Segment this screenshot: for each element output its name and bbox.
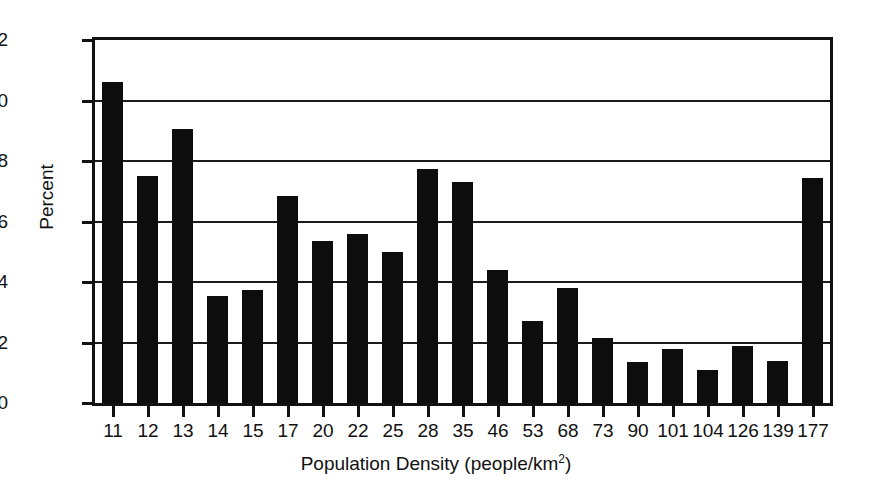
x-tick-mark	[812, 406, 815, 417]
bar	[277, 196, 298, 403]
bar	[732, 346, 753, 403]
bar	[417, 169, 438, 403]
chart-page: 024681012 Percent 1112131415172022252835…	[0, 0, 872, 497]
x-tick-mark	[112, 406, 115, 417]
x-tick-mark	[427, 406, 430, 417]
bar	[242, 290, 263, 403]
bar	[487, 270, 508, 403]
gridline-10	[95, 100, 830, 102]
x-axis-title-tail: )	[565, 453, 571, 474]
bar	[102, 82, 123, 403]
bar	[137, 176, 158, 403]
bar	[662, 349, 683, 403]
x-tick-mark	[182, 406, 185, 417]
plot-area	[92, 37, 833, 406]
bar	[172, 129, 193, 403]
bar	[347, 234, 368, 403]
x-tick-mark	[602, 406, 605, 417]
bar	[522, 321, 543, 403]
x-tick-mark	[357, 406, 360, 417]
y-tick-mark-2	[82, 342, 92, 345]
y-tick-mark-6	[82, 221, 92, 224]
y-tick-label: 0	[0, 393, 8, 412]
x-tick-label: 177	[788, 421, 838, 440]
y-tick-label: 8	[0, 151, 8, 170]
bar	[382, 252, 403, 403]
y-tick-label: 12	[0, 30, 8, 49]
bar	[802, 178, 823, 403]
gridline-8	[95, 160, 830, 162]
x-tick-mark	[567, 406, 570, 417]
y-tick-mark-10	[82, 100, 92, 103]
x-tick-mark	[392, 406, 395, 417]
bar	[627, 362, 648, 403]
x-tick-mark	[322, 406, 325, 417]
x-axis-title: Population Density (people/km2)	[0, 452, 872, 475]
bar	[767, 361, 788, 403]
bar	[697, 370, 718, 403]
y-tick-mark-12	[82, 39, 92, 42]
x-tick-mark	[217, 406, 220, 417]
x-tick-mark	[252, 406, 255, 417]
x-tick-mark	[287, 406, 290, 417]
y-tick-mark-8	[82, 160, 92, 163]
x-tick-mark	[637, 406, 640, 417]
x-tick-mark	[707, 406, 710, 417]
y-tick-mark-4	[82, 281, 92, 284]
y-tick-label: 6	[0, 212, 8, 231]
x-tick-mark	[462, 406, 465, 417]
x-tick-mark	[497, 406, 500, 417]
x-tick-mark	[742, 406, 745, 417]
bar	[557, 288, 578, 403]
y-tick-label: 2	[0, 333, 8, 352]
y-tick-mark-0	[82, 402, 92, 405]
y-axis-title: Percent	[36, 137, 58, 257]
x-tick-mark	[147, 406, 150, 417]
x-axis-title-base: Population Density (people/km	[301, 453, 559, 474]
bar	[207, 296, 228, 403]
bar	[452, 182, 473, 403]
y-tick-label: 4	[0, 272, 8, 291]
x-tick-mark	[532, 406, 535, 417]
x-tick-mark	[777, 406, 780, 417]
bar	[592, 338, 613, 403]
y-tick-label: 10	[0, 91, 8, 110]
x-tick-mark	[672, 406, 675, 417]
bar	[312, 241, 333, 403]
plot-inner	[95, 40, 830, 403]
